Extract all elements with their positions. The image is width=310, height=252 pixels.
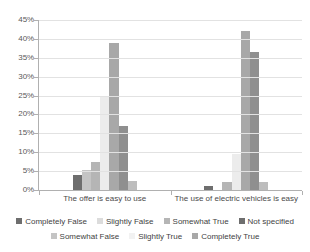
bar-group xyxy=(39,20,171,190)
chart-legend: Completely FalseSlightly FalseSomewhat T… xyxy=(0,210,310,250)
y-tick-mark xyxy=(34,58,38,59)
plot-area xyxy=(39,20,302,190)
bar xyxy=(91,162,100,190)
legend-row-2: Somewhat FalseSlightly TrueCompletely Tr… xyxy=(0,229,310,243)
legend-label: Slightly False xyxy=(106,217,154,226)
y-tick-label: 45% xyxy=(0,16,34,24)
x-tick-mark xyxy=(302,191,303,195)
y-tick-label: 10% xyxy=(0,148,34,156)
x-axis-category-label: The use of electric vehicles is easy xyxy=(171,194,303,204)
bar xyxy=(128,181,137,190)
legend-swatch-icon xyxy=(239,218,245,224)
legend-label: Completely True xyxy=(201,232,259,241)
y-tick-mark xyxy=(34,77,38,78)
legend-item[interactable]: Completely True xyxy=(192,232,259,241)
legend-swatch-icon xyxy=(97,218,103,224)
x-axis-category-labels: The offer is easy to useThe use of elect… xyxy=(39,194,302,208)
y-tick-label: 20% xyxy=(0,110,34,118)
bar xyxy=(204,186,213,190)
bar xyxy=(73,175,82,190)
gridline xyxy=(39,96,302,97)
legend-swatch-icon xyxy=(129,233,135,239)
y-tick-label: 30% xyxy=(0,73,34,81)
y-tick-mark xyxy=(34,133,38,134)
y-tick-mark xyxy=(34,152,38,153)
gridline xyxy=(39,77,302,78)
y-tick-label: 25% xyxy=(0,92,34,100)
legend-item[interactable]: Slightly False xyxy=(97,217,154,226)
legend-row-1: Completely FalseSlightly FalseSomewhat T… xyxy=(0,214,310,228)
bar xyxy=(250,52,259,190)
bar xyxy=(100,97,109,190)
x-axis-category-label: The offer is easy to use xyxy=(39,194,171,204)
legend-item[interactable]: Completely False xyxy=(16,217,87,226)
gridline xyxy=(39,152,302,153)
bar-chart: 0%5%10%15%20%25%30%35%40%45% The offer i… xyxy=(0,0,310,252)
legend-swatch-icon xyxy=(164,218,170,224)
y-axis: 0%5%10%15%20%25%30%35%40%45% xyxy=(0,0,34,196)
gridline xyxy=(39,39,302,40)
legend-swatch-icon xyxy=(51,233,57,239)
legend-swatch-icon xyxy=(192,233,198,239)
x-tick-mark xyxy=(39,191,40,195)
bar xyxy=(222,182,231,190)
y-tick-mark xyxy=(34,190,38,191)
legend-label: Somewhat True xyxy=(173,217,229,226)
x-tick-mark xyxy=(171,191,172,195)
bar-group xyxy=(171,20,303,190)
y-tick-mark xyxy=(34,171,38,172)
plot-wrapper: 0%5%10%15%20%25%30%35%40%45% The offer i… xyxy=(0,0,310,196)
legend-item[interactable]: Slightly True xyxy=(129,232,182,241)
legend-label: Completely False xyxy=(25,217,87,226)
y-tick-mark xyxy=(34,96,38,97)
bar xyxy=(259,182,268,190)
legend-label: Not specified xyxy=(248,217,294,226)
gridline xyxy=(39,133,302,134)
y-tick-mark xyxy=(34,39,38,40)
y-tick-mark xyxy=(34,20,38,21)
legend-swatch-icon xyxy=(16,218,22,224)
gridline xyxy=(39,20,302,21)
y-tick-label: 5% xyxy=(0,167,34,175)
y-tick-mark xyxy=(34,114,38,115)
gridline xyxy=(39,114,302,115)
legend-item[interactable]: Somewhat False xyxy=(51,232,120,241)
bar xyxy=(109,43,118,190)
legend-label: Somewhat False xyxy=(60,232,120,241)
y-tick-label: 0% xyxy=(0,186,34,194)
bar xyxy=(82,170,91,190)
legend-label: Slightly True xyxy=(138,232,182,241)
bar xyxy=(119,126,128,190)
gridline xyxy=(39,171,302,172)
bar xyxy=(241,31,250,190)
y-tick-label: 35% xyxy=(0,54,34,62)
legend-item[interactable]: Not specified xyxy=(239,217,294,226)
gridline xyxy=(39,58,302,59)
y-tick-label: 40% xyxy=(0,35,34,43)
y-tick-label: 15% xyxy=(0,129,34,137)
legend-item[interactable]: Somewhat True xyxy=(164,217,229,226)
